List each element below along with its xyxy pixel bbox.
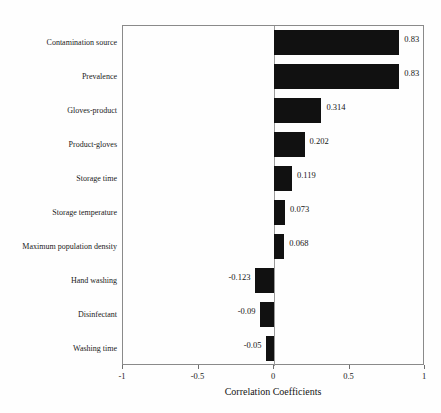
bar-value-label: -0.123 bbox=[228, 273, 250, 282]
category-label: Maximum population density bbox=[0, 242, 117, 251]
category-label: Hand washing bbox=[0, 276, 117, 285]
bar-row: 0.068 bbox=[123, 230, 425, 264]
category-label: Gloves-product bbox=[0, 106, 117, 115]
bar bbox=[274, 234, 284, 259]
bar-value-label: 0.314 bbox=[326, 103, 345, 112]
bar bbox=[266, 336, 274, 361]
bar-value-label: 0.83 bbox=[404, 35, 419, 44]
tornado-chart-figure: Contamination sourcePrevalenceGloves-pro… bbox=[0, 0, 441, 413]
bar-row: 0.073 bbox=[123, 196, 425, 230]
x-tick-label: 1 bbox=[422, 371, 426, 381]
x-tick-label: -1 bbox=[118, 371, 125, 381]
bar bbox=[274, 166, 292, 191]
bar-row: -0.09 bbox=[123, 298, 425, 332]
bar-value-label: 0.83 bbox=[404, 69, 419, 78]
category-label: Product-gloves bbox=[0, 140, 117, 149]
x-tick-mark bbox=[273, 365, 274, 369]
bar-value-label: -0.09 bbox=[238, 307, 256, 316]
x-axis: -1-0.500.51 bbox=[122, 365, 424, 405]
category-label: Storage time bbox=[0, 174, 117, 183]
category-label: Washing time bbox=[0, 344, 117, 353]
bar-value-label: 0.068 bbox=[289, 239, 308, 248]
x-tick-mark bbox=[349, 365, 350, 369]
bar-row: 0.83 bbox=[123, 60, 425, 94]
category-label: Storage temperature bbox=[0, 208, 117, 217]
x-tick-label: -0.5 bbox=[191, 371, 204, 381]
bar bbox=[260, 302, 274, 327]
bar bbox=[274, 30, 399, 55]
bar bbox=[274, 132, 305, 157]
x-tick-mark bbox=[122, 365, 123, 369]
bar-value-label: 0.119 bbox=[297, 171, 316, 180]
bar-value-label: 0.073 bbox=[290, 205, 309, 214]
category-label: Disinfectant bbox=[0, 310, 117, 319]
bar bbox=[274, 98, 321, 123]
bar-row: -0.123 bbox=[123, 264, 425, 298]
bar-value-label: -0.05 bbox=[244, 341, 262, 350]
bar-row: 0.314 bbox=[123, 94, 425, 128]
x-tick-mark bbox=[424, 365, 425, 369]
bar-row: 0.83 bbox=[123, 26, 425, 60]
bar-row: -0.05 bbox=[123, 332, 425, 366]
bar-value-label: 0.202 bbox=[310, 137, 329, 146]
x-tick-mark bbox=[198, 365, 199, 369]
plot-area: 0.830.830.3140.2020.1190.0730.068-0.123-… bbox=[122, 25, 424, 365]
bar bbox=[274, 200, 285, 225]
bar bbox=[274, 64, 399, 89]
bar-row: 0.119 bbox=[123, 162, 425, 196]
category-label: Prevalence bbox=[0, 72, 117, 81]
x-axis-title: Correlation Coefficients bbox=[122, 386, 424, 398]
bar-row: 0.202 bbox=[123, 128, 425, 162]
category-label: Contamination source bbox=[0, 38, 117, 47]
x-tick-label: 0 bbox=[271, 371, 275, 381]
bar bbox=[255, 268, 274, 293]
x-tick-label: 0.5 bbox=[343, 371, 354, 381]
category-axis-labels: Contamination sourcePrevalenceGloves-pro… bbox=[0, 25, 117, 365]
